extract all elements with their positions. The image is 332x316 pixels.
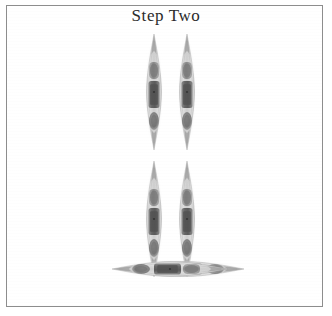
top-left-specimen <box>139 33 169 151</box>
specimen-shape-vertical <box>139 33 169 151</box>
figure-root: Step Two <box>0 0 332 316</box>
bottom-right-specimen <box>199 254 317 284</box>
top-right-specimen <box>172 33 202 151</box>
specimen-shape-vertical <box>172 160 202 278</box>
middle-right-specimen <box>172 160 202 278</box>
specimen-shape-vertical <box>172 33 202 151</box>
figure-title: Step Two <box>0 6 332 26</box>
specimen-shape-horizontal <box>199 254 317 284</box>
